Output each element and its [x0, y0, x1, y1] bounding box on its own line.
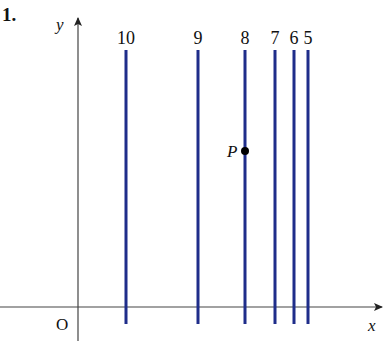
level-label-10: 10 — [117, 28, 135, 48]
level-lines: 1098765 — [117, 28, 313, 324]
x-axis-label: x — [367, 316, 376, 335]
y-axis-label: y — [54, 15, 64, 34]
level-label-8: 8 — [241, 28, 250, 48]
level-label-6: 6 — [290, 28, 299, 48]
level-label-7: 7 — [271, 28, 280, 48]
level-lines-diagram: y x O 1098765 P — [0, 0, 388, 341]
origin-label: O — [56, 315, 68, 334]
level-label-5: 5 — [304, 28, 313, 48]
point-p-marker — [241, 147, 249, 155]
point-p-label: P — [226, 142, 237, 161]
level-label-9: 9 — [194, 28, 203, 48]
